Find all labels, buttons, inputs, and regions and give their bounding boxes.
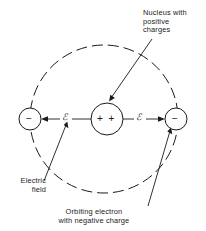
left-field-symbol: ℰ [62,112,67,122]
orbiting-electron-leader-line [148,131,170,206]
electric-field-label: Electric field [2,177,46,194]
electric-field-leader-arrowhead [64,122,69,129]
right-field-arrowhead [158,116,165,122]
orbiting-electron-label: Orbiting electron with negative charge [38,208,150,225]
nucleus-leader-arrowhead [109,95,115,102]
left-electron-charge-symbol: − [26,113,32,124]
right-field-symbol: ℰ [136,112,141,122]
right-electron-charge-symbol: − [172,113,178,124]
left-field-arrowhead [41,116,48,122]
nucleus-leader-line [111,39,152,98]
atom-electric-field-diagram: + + − − ℰ ℰ Nucleus with positive charge… [0,0,206,231]
nucleus-label: Nucleus with positive charges [143,9,187,35]
nucleus-charge-symbol: + + [97,113,114,124]
electric-field-leader-line [44,125,66,181]
